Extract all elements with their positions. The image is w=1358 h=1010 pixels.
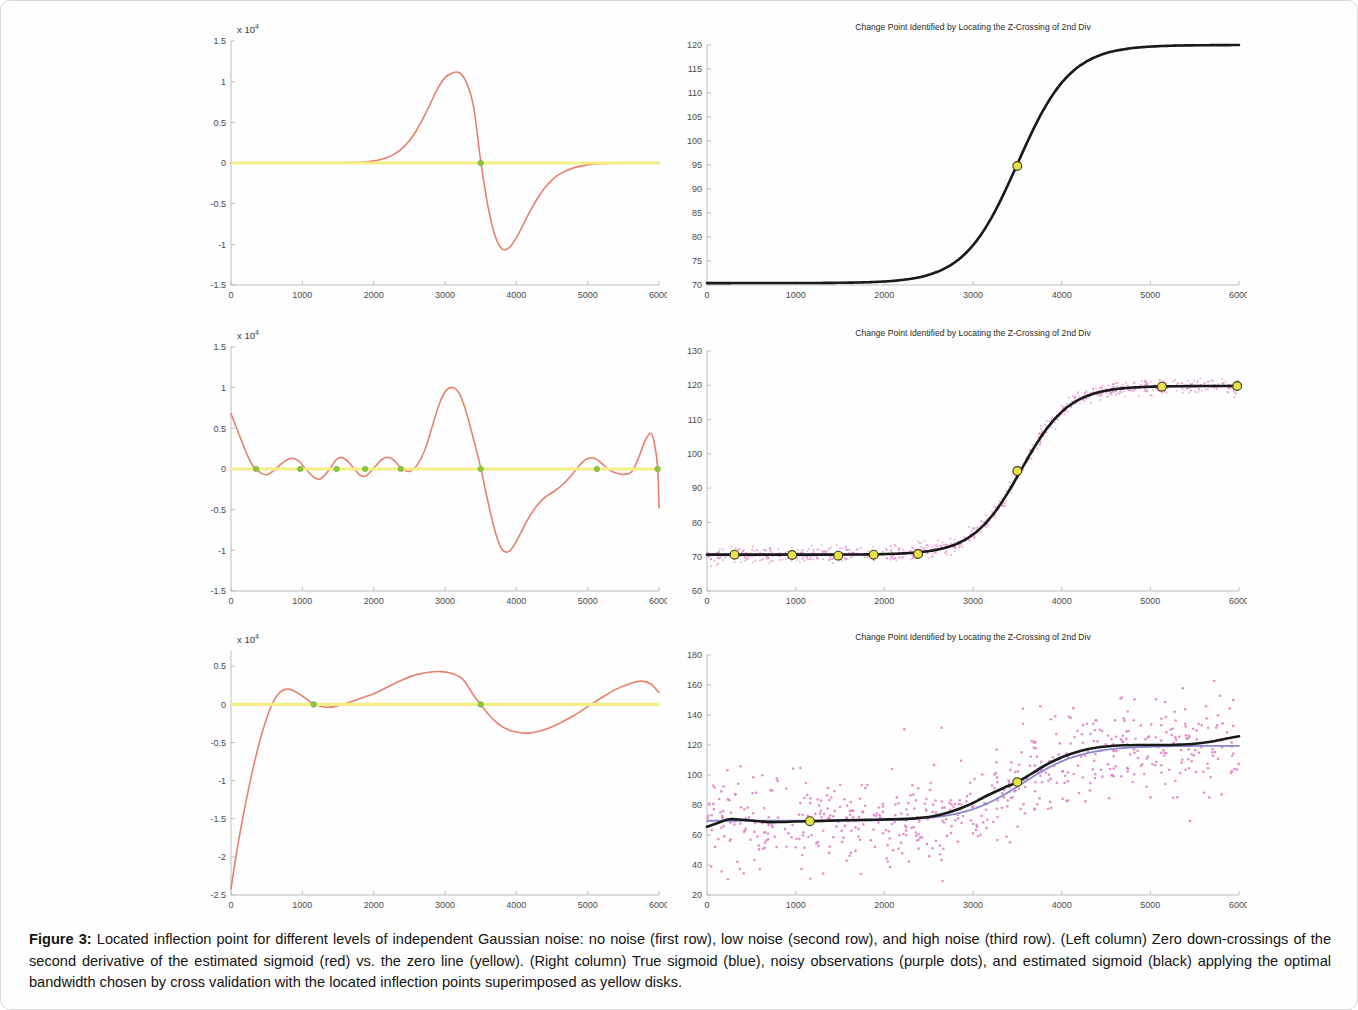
y-tick-label: 0: [221, 464, 226, 474]
x-tick-label: 2000: [874, 290, 894, 300]
noise-dots: [707, 680, 1241, 883]
chart-title: Change Point Identified by Locating the …: [855, 328, 1091, 338]
y-tick-label: 40: [692, 860, 702, 870]
panel-row1-left: -1.5-1-0.500.511.50100020003000400050006…: [197, 19, 667, 311]
x-tick-label: 1000: [292, 596, 312, 606]
x-tick-label: 0: [228, 596, 233, 606]
x-tick-label: 5000: [578, 900, 598, 910]
y-tick-label: 70: [692, 552, 702, 562]
figure-grid: -1.5-1-0.500.511.50100020003000400050006…: [1, 1, 1358, 921]
x-tick-label: 3000: [435, 900, 455, 910]
y-tick-label: 90: [692, 483, 702, 493]
series-estimated-sigmoid: [707, 45, 1239, 283]
y-tick-label: -2: [218, 852, 226, 862]
figure-page: -1.5-1-0.500.511.50100020003000400050006…: [0, 0, 1358, 1010]
y-tick-label: 120: [687, 380, 702, 390]
x-tick-label: 6000: [1229, 290, 1247, 300]
y-tick-label: 110: [688, 88, 702, 98]
y-tick-label: 140: [687, 710, 702, 720]
x-tick-label: 4000: [1052, 290, 1072, 300]
y-tick-label: 120: [687, 40, 702, 50]
x-tick-label: 2000: [874, 596, 894, 606]
y-tick-label: -1: [218, 546, 226, 556]
panel-row2-right: Change Point Identified by Locating the …: [677, 325, 1247, 617]
chart-row2-right: Change Point Identified by Locating the …: [677, 325, 1247, 617]
x-tick-label: 2000: [364, 290, 384, 300]
y-tick-label: 0: [221, 700, 226, 710]
series-estimated-sigmoid: [707, 736, 1239, 826]
x-tick-label: 0: [704, 596, 709, 606]
y-axis-exponent-label: x 104: [237, 329, 259, 341]
y-tick-label: 80: [692, 232, 702, 242]
series-estimated-sigmoid: [707, 386, 1239, 555]
y-tick-label: -0.5: [210, 199, 226, 209]
x-tick-label: 3000: [963, 596, 983, 606]
x-tick-label: 4000: [1052, 596, 1072, 606]
inflection-point-markers: [730, 382, 1242, 560]
chart-row1-left: -1.5-1-0.500.511.50100020003000400050006…: [197, 19, 667, 311]
chart-title: Change Point Identified by Locating the …: [855, 632, 1091, 642]
x-tick-label: 5000: [1140, 596, 1160, 606]
y-tick-label: 90: [692, 184, 702, 194]
y-tick-label: -0.5: [210, 738, 226, 748]
y-tick-label: 0: [221, 158, 226, 168]
y-tick-label: 0.5: [213, 661, 226, 671]
y-tick-label: 160: [687, 680, 702, 690]
x-tick-label: 3000: [435, 596, 455, 606]
x-tick-label: 4000: [506, 900, 526, 910]
x-tick-label: 5000: [1140, 290, 1160, 300]
x-tick-label: 6000: [649, 596, 667, 606]
y-tick-label: 105: [687, 112, 702, 122]
chart-row3-right: Change Point Identified by Locating the …: [677, 629, 1247, 921]
y-tick-label: 80: [692, 800, 702, 810]
series-true-sigmoid: [707, 746, 1239, 821]
x-tick-label: 1000: [292, 290, 312, 300]
y-tick-label: 70: [692, 280, 702, 290]
x-tick-label: 0: [704, 290, 709, 300]
x-tick-label: 1000: [786, 596, 806, 606]
noise-dots: [706, 377, 1239, 567]
y-tick-label: -1: [218, 240, 226, 250]
y-tick-label: 180: [687, 650, 702, 660]
chart-title: Change Point Identified by Locating the …: [855, 22, 1091, 32]
y-tick-label: 20: [692, 890, 702, 900]
x-tick-label: 3000: [963, 900, 983, 910]
panel-row2-left: -1.5-1-0.500.511.50100020003000400050006…: [197, 325, 667, 617]
x-tick-label: 6000: [1229, 900, 1247, 910]
x-tick-label: 4000: [506, 290, 526, 300]
y-tick-label: 1.5: [213, 36, 226, 46]
figure-caption: Figure 3: Located inflection point for d…: [29, 929, 1331, 994]
x-tick-label: 6000: [649, 900, 667, 910]
x-tick-label: 3000: [435, 290, 455, 300]
y-tick-label: 100: [687, 770, 702, 780]
x-tick-label: 1000: [786, 290, 806, 300]
y-tick-label: 85: [692, 208, 702, 218]
y-tick-label: -1.5: [210, 586, 226, 596]
x-tick-label: 5000: [578, 596, 598, 606]
chart-row1-right: Change Point Identified by Locating the …: [677, 19, 1247, 311]
chart-row3-left: -2.5-2-1.5-1-0.500.501000200030004000500…: [197, 629, 667, 921]
x-tick-label: 4000: [506, 596, 526, 606]
y-tick-label: -2.5: [210, 890, 226, 900]
y-tick-label: 80: [692, 518, 702, 528]
y-tick-label: -1.5: [210, 814, 226, 824]
panel-row3-left: -2.5-2-1.5-1-0.500.501000200030004000500…: [197, 629, 667, 921]
y-axis-exponent-label: x 104: [237, 23, 259, 35]
y-tick-label: 60: [692, 830, 702, 840]
y-tick-label: -1.5: [210, 280, 226, 290]
x-tick-label: 5000: [1140, 900, 1160, 910]
x-tick-label: 2000: [364, 596, 384, 606]
y-tick-label: 0.5: [213, 118, 226, 128]
x-tick-label: 5000: [578, 290, 598, 300]
x-tick-label: 0: [704, 900, 709, 910]
y-tick-label: 1.5: [213, 342, 226, 352]
x-tick-label: 1000: [292, 900, 312, 910]
y-tick-label: 110: [688, 415, 702, 425]
x-tick-label: 6000: [649, 290, 667, 300]
y-tick-label: 95: [692, 160, 702, 170]
y-tick-label: 60: [692, 586, 702, 596]
x-tick-label: 3000: [963, 290, 983, 300]
x-tick-label: 0: [228, 290, 233, 300]
x-tick-label: 1000: [786, 900, 806, 910]
y-tick-label: 1: [221, 383, 226, 393]
